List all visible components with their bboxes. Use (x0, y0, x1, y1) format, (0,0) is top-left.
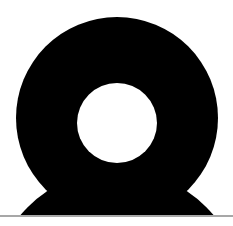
ring-figure (0, 0, 233, 226)
ring-shape-group (0, 17, 233, 226)
inner-hole (77, 83, 157, 163)
base-dome (0, 170, 233, 226)
